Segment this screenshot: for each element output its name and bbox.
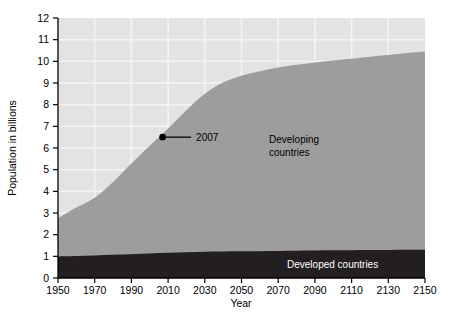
x-tick-label: 2070 [267,284,291,296]
x-axis-title: Year [230,297,252,309]
x-axis-ticks [58,278,425,283]
annotation-dot-icon [159,134,166,141]
y-tick-label: 7 [43,120,49,132]
y-tick-label: 9 [43,77,49,89]
y-axis-tick-labels: 0123456789101112 [37,12,49,284]
y-tick-label: 3 [43,207,49,219]
y-axis-title: Population in billions [6,100,18,196]
developing-countries-label-line2: countries [269,147,310,158]
chart-svg: 0123456789101112 19501970199020102030205… [0,0,455,331]
y-tick-label: 10 [37,55,49,67]
y-tick-label: 5 [43,163,49,175]
annotation-2007-label: 2007 [196,132,219,143]
y-axis-ticks [53,18,58,278]
x-axis-tick-labels: 1950197019902010203020502070209021102130… [46,284,437,296]
x-tick-label: 1990 [120,284,144,296]
x-tick-label: 2150 [413,284,437,296]
y-tick-label: 12 [37,12,49,24]
population-projection-chart: 0123456789101112 19501970199020102030205… [0,0,455,331]
y-tick-label: 8 [43,98,49,110]
x-tick-label: 2010 [156,284,180,296]
y-tick-label: 1 [43,250,49,262]
developing-countries-label-line1: Developing [269,134,319,145]
x-tick-label: 2050 [230,284,254,296]
y-tick-label: 4 [43,185,49,197]
y-tick-label: 2 [43,228,49,240]
y-tick-label: 0 [43,272,49,284]
x-tick-label: 2130 [377,284,401,296]
developed-countries-label: Developed countries [287,259,378,270]
x-tick-label: 2090 [303,284,327,296]
y-tick-label: 6 [43,142,49,154]
x-tick-label: 2110 [340,284,363,296]
x-tick-label: 1950 [46,284,70,296]
x-tick-label: 1970 [83,284,107,296]
y-tick-label: 11 [38,33,49,45]
x-tick-label: 2030 [193,284,217,296]
